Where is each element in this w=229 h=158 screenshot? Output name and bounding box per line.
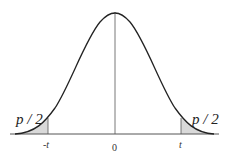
right-tail-label: p / 2 xyxy=(192,112,219,127)
distribution-diagram xyxy=(0,0,229,158)
left-tail-label: p / 2 xyxy=(16,112,43,127)
tick-t: t xyxy=(179,140,182,150)
density-curve xyxy=(15,13,214,134)
tick-neg-t: -t xyxy=(43,140,49,150)
tick-zero: 0 xyxy=(112,143,117,153)
